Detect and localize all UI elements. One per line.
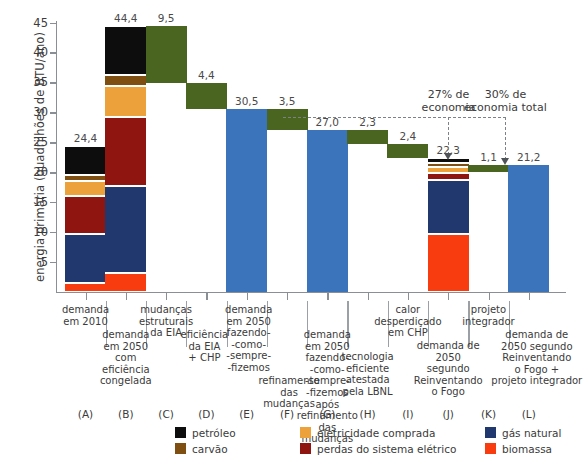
bar-B[interactable] [105,26,146,292]
legend-label: petróleo [192,427,236,439]
y-tick-label-40: 40 [20,45,48,59]
category-label-K: projeto integrador [457,304,521,327]
bar-A[interactable] [65,146,106,292]
bar-segment-gas [65,234,106,283]
x-tick-B [126,293,127,300]
x-tick-G [327,293,328,300]
y-tick-25 [50,142,57,143]
x-tick-E [247,293,248,300]
annotation-27-dashed [448,117,449,155]
category-letter-I: (I) [386,408,430,420]
y-tick-30 [50,112,57,113]
legend-column-2: eletricidade compradaperdas do sistema e… [300,425,480,457]
legend-item-petróleo[interactable]: petróleo [175,425,295,440]
bar-value-C: 9,5 [140,12,192,24]
bar-value-H: 2,3 [342,116,394,128]
bar-segment-biomassa [105,273,146,292]
bar-value-L: 21,2 [503,151,555,163]
bar-segment-gas [105,186,146,273]
bar-segment-eletrica [105,86,146,117]
legend-label: eletricidade comprada [317,427,435,439]
y-tick-5 [50,262,57,263]
bar-J[interactable] [428,158,469,292]
legend-swatch-icon [485,443,496,454]
category-label-L: demanda de 2050 segundo Reinventando o F… [488,329,586,387]
bar-segment-biomassa [65,283,106,292]
x-tick-J [448,293,449,300]
bar-value-F: 3,5 [261,95,313,107]
legend-column-1: petróleocarvão [175,425,295,457]
bar-E[interactable] [226,109,267,292]
y-tick-40 [50,52,57,53]
category-label-A: demanda em 2010 [51,304,121,327]
y-tick-10 [50,232,57,233]
y-tick-label-45: 45 [20,16,48,30]
y-tick-label-15: 15 [20,195,48,209]
y-tick-label-35: 35 [20,75,48,89]
bar-segment-perdas [65,196,106,235]
y-tick-15 [50,202,57,203]
category-letter-L: (L) [507,408,551,420]
annotation-27-arrow [444,153,452,160]
annotation-30-arrow [501,158,509,165]
y-tick-label-25: 25 [20,135,48,149]
category-letter-C: (C) [144,408,188,420]
x-tick-C [166,293,167,300]
bar-value-A: 24,4 [60,132,112,144]
category-label-H: tecnologia eficiente atestada pela LBNL [337,351,399,397]
legend-item-eletricidade-comprada[interactable]: eletricidade comprada [300,425,480,440]
category-label-J: demanda de 2050 segundo Reinventando o F… [409,340,487,398]
category-letter-D: (D) [184,408,228,420]
legend-label: carvão [192,443,228,455]
annotation-30-dashed [505,117,506,160]
annotation-baseline-dashed [283,117,506,118]
legend-label: perdas do sistema elétrico [317,443,456,455]
legend-swatch-icon [300,443,311,454]
category-letter-H: (H) [346,408,390,420]
x-tick-I [408,293,409,300]
bar-segment-eletrica [428,167,469,173]
y-tick-label-20: 20 [20,165,48,179]
category-letter-B: (B) [104,408,148,420]
y-tick-label-5: 5 [20,255,48,269]
legend-item-carvão[interactable]: carvão [175,441,295,456]
x-tick-D [206,293,207,300]
legend-swatch-icon [175,427,186,438]
bar-segment-carvao [65,175,106,181]
y-tick-label-30: 30 [20,105,48,119]
category-label-I: calor desperdiçado em CHP [372,304,444,339]
bar-segment-eletrica [65,181,106,195]
bar-segment-carvao [428,163,469,167]
legend-swatch-icon [175,443,186,454]
x-tick-L [529,293,530,300]
bar-G[interactable] [307,130,348,292]
category-letter-A: (A) [64,408,108,420]
x-tick-A [86,293,87,300]
bar-segment-petroleo [65,146,106,175]
bar-segment-petroleo [105,26,146,75]
y-axis-title: energia primária (quadrilhões de BTU/ano… [33,22,47,292]
x-tick-F [287,293,288,300]
legend-label: gás natural [502,427,561,439]
category-letter-E: (E) [225,408,269,420]
bar-segment-perdas [428,173,469,180]
bar-value-D: 4,4 [180,69,232,81]
legend-item-gás-natural[interactable]: gás natural [485,425,587,440]
category-letter-G: (G) [305,408,349,420]
legend-label: biomassa [502,443,552,455]
legend-item-biomassa[interactable]: biomassa [485,441,587,456]
y-tick-35 [50,82,57,83]
x-tick-K [489,293,490,300]
legend-item-perdas-do-sistema-elétrico[interactable]: perdas do sistema elétrico [300,441,480,456]
bar-segment-carvao [105,75,146,86]
x-tick-H [368,293,369,300]
bar-K[interactable] [468,165,509,172]
annotation-30-label: 30% de economia total [437,88,574,114]
legend-swatch-icon [300,427,311,438]
bar-L[interactable] [508,165,549,292]
y-tick-45 [50,23,57,24]
bar-value-I: 2,4 [382,130,434,142]
y-tick-20 [50,172,57,173]
y-axis-line [56,21,57,293]
